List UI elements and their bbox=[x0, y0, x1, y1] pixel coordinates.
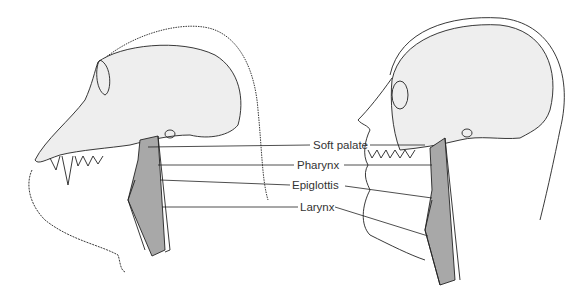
anatomy-figure bbox=[0, 0, 574, 299]
label-soft-palate: Soft palate bbox=[313, 138, 368, 152]
chimp-head bbox=[29, 26, 268, 272]
label-larynx: Larynx bbox=[300, 200, 335, 214]
leader-lines bbox=[148, 145, 432, 236]
label-epiglottis: Epiglottis bbox=[292, 178, 339, 192]
chimp-skull bbox=[35, 45, 241, 162]
human-skull bbox=[391, 25, 553, 150]
label-pharynx: Pharynx bbox=[297, 158, 339, 172]
human-head bbox=[358, 18, 564, 285]
